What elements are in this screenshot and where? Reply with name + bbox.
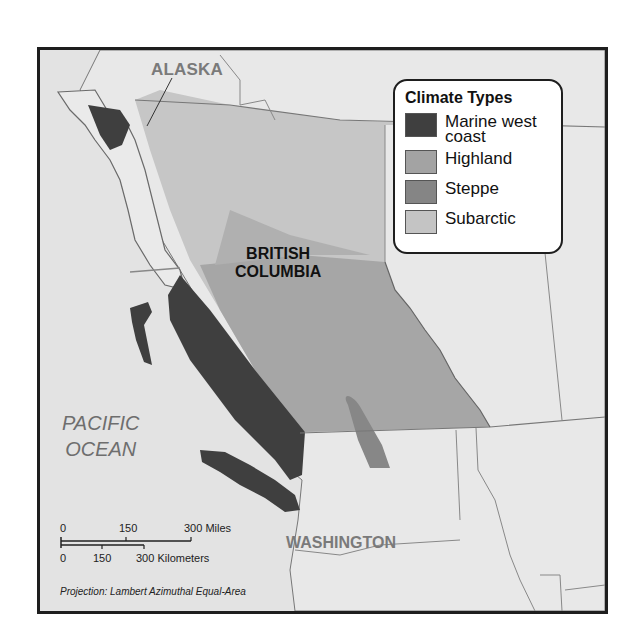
map-frame: ALASKA BRITISH COLUMBIA PACIFIC OCEAN WA…	[37, 47, 608, 614]
label-british-columbia: BRITISH COLUMBIA	[235, 245, 321, 281]
legend-title: Climate Types	[405, 89, 551, 107]
scale-km-tick-150: 150	[93, 552, 111, 564]
label-washington: WASHINGTON	[286, 534, 396, 552]
legend-label: Subarctic	[445, 210, 516, 226]
legend-label: Steppe	[445, 180, 499, 196]
scale-miles-tick-300: 300 Miles	[184, 522, 231, 534]
legend-label: Highland	[445, 150, 512, 166]
label-alaska: ALASKA	[151, 60, 223, 80]
scale-miles-tick-0: 0	[60, 522, 66, 534]
label-bc-line1: BRITISH	[235, 245, 321, 263]
projection-note: Projection: Lambert Azimuthal Equal-Area	[60, 586, 246, 597]
swatch-marine-west-coast	[405, 113, 437, 137]
scale-miles-tick-150: 150	[119, 522, 137, 534]
label-pacific-line1: PACIFIC	[62, 410, 139, 436]
scale-bar: 0 150 300 Miles 0 150 300 Kilometers	[60, 522, 290, 582]
scale-bar-lines	[60, 536, 210, 550]
legend-item-marine-west-coast: Marine west coast	[405, 113, 551, 144]
legend-label-cont: coast	[445, 129, 537, 144]
legend-item-subarctic: Subarctic	[405, 210, 551, 234]
label-pacific-line2: OCEAN	[62, 436, 139, 462]
label-bc-line2: COLUMBIA	[235, 263, 321, 281]
swatch-highland	[405, 150, 437, 174]
legend: Climate Types Marine west coast Highland…	[393, 79, 563, 254]
legend-item-steppe: Steppe	[405, 180, 551, 204]
legend-item-highland: Highland	[405, 150, 551, 174]
scale-km-tick-300: 300 Kilometers	[136, 552, 209, 564]
swatch-steppe	[405, 180, 437, 204]
scale-km-tick-0: 0	[60, 552, 66, 564]
label-pacific-ocean: PACIFIC OCEAN	[62, 410, 139, 462]
swatch-subarctic	[405, 210, 437, 234]
